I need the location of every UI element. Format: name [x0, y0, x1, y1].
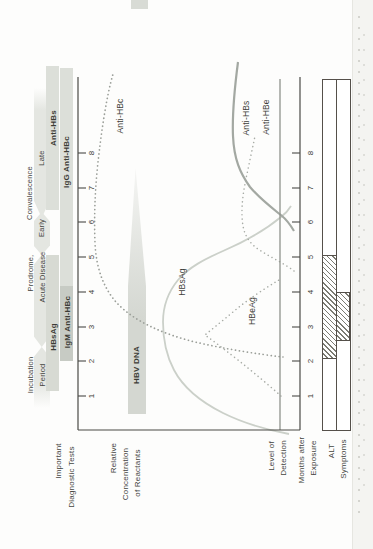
section-label-diagnostic-tests: Diagnostic Tests [67, 446, 76, 507]
section-label-alt: ALT [327, 444, 336, 459]
caption-marks [358, 16, 360, 521]
curve-label-anti-hbs: Anti-HBs [241, 100, 251, 135]
left-axis-month-3: 3 [87, 325, 96, 330]
right-axis-month-2: 2 [306, 359, 315, 364]
phase-label-incubation: Incubation [26, 357, 35, 394]
phase-label-acute-disease: Acute Disease [38, 252, 47, 303]
phase-label-incubation-period: Period [38, 364, 47, 387]
right-axis-month-4: 4 [306, 290, 315, 295]
phase-label-convalescence: Convalescence [25, 166, 34, 220]
section-label-concentration: Concentration [121, 448, 130, 500]
hbeag-curve [205, 280, 281, 396]
section-label-symptoms: Symptoms [339, 439, 348, 478]
hepatitis-b-serology-figure: Incubation Period Prodrome, Acute Diseas… [0, 0, 373, 549]
bar-label-igg-anti-hbc: IgG Anti-HBc [61, 136, 70, 188]
section-label-important: Important [54, 443, 63, 479]
alt-elevated-region [322, 255, 337, 359]
phase-label-late: Late [37, 150, 46, 165]
left-axis-month-6: 6 [87, 220, 96, 225]
curve-label-anti-hbe: Anti-HBe [261, 99, 271, 135]
hbsag-curve [163, 206, 291, 434]
left-axis-month-4: 4 [87, 290, 96, 295]
bar-label-igm-anti-hbc: IgM Anti-HBc [62, 296, 71, 348]
month-ticks-right-axis [292, 153, 300, 396]
section-label-detection: Detection [279, 440, 288, 476]
section-label-exposure: Exposure [309, 440, 318, 475]
symptoms-region [336, 292, 350, 341]
caption-marks-2 [363, 34, 365, 494]
left-axis-month-7: 7 [87, 186, 96, 191]
right-axis-month-8: 8 [306, 151, 315, 156]
bar-label-hbsag: HBsAg [49, 323, 58, 351]
phase-label-prodrome: Prodrome, [26, 255, 35, 292]
section-label-months-after: Months after [297, 437, 306, 484]
left-axis-month-5: 5 [87, 255, 96, 260]
right-axis-month-7: 7 [306, 186, 315, 191]
right-axis-month-3: 3 [306, 325, 315, 330]
section-label-of-reactants: of Reactants [133, 449, 142, 496]
bar-label-hbv-dna: HBV DNA [132, 346, 141, 384]
right-axis-month-1: 1 [306, 394, 315, 399]
phase-label-early: Early [37, 219, 46, 237]
curve-label-anti-hbc: Anti-HBc [115, 98, 125, 133]
section-label-level-of: Level of [267, 441, 276, 471]
curve-label-hbsag: HBsAg [177, 268, 187, 295]
left-axis-month-8: 8 [87, 151, 96, 156]
month-ticks-left-axis [78, 153, 86, 396]
section-label-relative: Relative [109, 443, 118, 474]
curve-label-hbeag: HBeAg [247, 297, 257, 325]
right-axis-month-5: 5 [306, 255, 315, 260]
left-axis-month-1: 1 [87, 394, 96, 399]
right-axis-month-6: 6 [306, 220, 315, 225]
bar-label-anti-hbs: Anti-HBs [48, 110, 57, 146]
left-axis-month-2: 2 [87, 359, 96, 364]
